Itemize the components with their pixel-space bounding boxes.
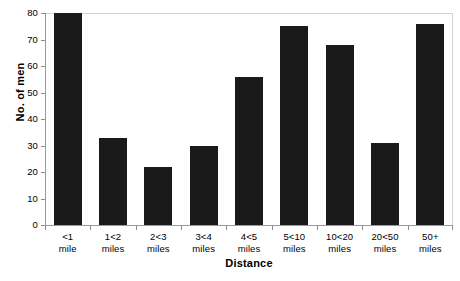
bar — [99, 138, 127, 225]
y-tick-label: 20 — [16, 167, 38, 177]
x-tick-mark — [317, 226, 318, 230]
x-tick-mark — [136, 226, 137, 230]
y-tick-label: 80 — [16, 8, 38, 18]
x-tick-label-line1: 50+ — [403, 231, 457, 243]
x-tick-mark — [45, 226, 46, 230]
y-tick-label: 10 — [16, 194, 38, 204]
bar — [235, 77, 263, 225]
x-tick-mark — [272, 226, 273, 230]
y-tick-label: 60 — [16, 61, 38, 71]
x-tick-mark — [362, 226, 363, 230]
y-tick-label: 40 — [16, 114, 38, 124]
x-tick-mark — [452, 226, 453, 230]
x-tick-mark — [226, 226, 227, 230]
bar-chart: No. of men 01020304050607080 <1mile1<2mi… — [0, 0, 460, 281]
bar — [326, 45, 354, 225]
x-tick-mark — [181, 226, 182, 230]
bars-layer — [45, 13, 453, 225]
bar — [190, 146, 218, 226]
bar — [416, 24, 444, 225]
x-tick-mark — [90, 226, 91, 230]
y-tick-label: 70 — [16, 35, 38, 45]
x-axis-title: Distance — [45, 257, 453, 269]
y-tick-label: 50 — [16, 88, 38, 98]
bar — [54, 13, 82, 225]
x-tick-label-line2: miles — [403, 243, 457, 255]
bar — [371, 143, 399, 225]
y-tick-label: 30 — [16, 141, 38, 151]
y-tick-label: 0 — [16, 220, 38, 230]
x-tick-mark — [408, 226, 409, 230]
bar — [144, 167, 172, 225]
bar — [280, 26, 308, 225]
x-tick-label: 50+miles — [403, 231, 457, 254]
y-axis-tick-labels: 01020304050607080 — [16, 0, 38, 281]
